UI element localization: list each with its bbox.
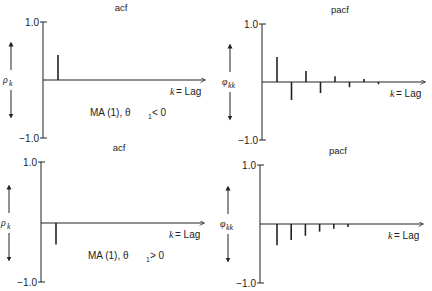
panel-title: pacf — [331, 4, 349, 15]
panel-title: acf — [113, 142, 126, 153]
y-bottom-tick-label: −1.0 — [236, 278, 256, 289]
y-label-subscript: k — [9, 79, 13, 88]
ma1-acf-pacf-diagram: acf 1.0 −1.0 ρ k k = Lag MA (1), θ 1 < 0… — [0, 0, 432, 291]
y-axis-label: ρ k — [2, 74, 13, 88]
x-axis-label: k = Lag — [169, 229, 200, 240]
y-label-subscript: kk — [228, 81, 236, 90]
y-top-tick-label: 1.0 — [25, 17, 39, 28]
x-axis-label: k = Lag — [170, 86, 201, 97]
y-top-tick-label: 1.0 — [242, 160, 256, 171]
y-bottom-tick-label: −1.0 — [19, 133, 39, 144]
x-axis-label: k = Lag — [390, 88, 421, 99]
y-top-tick-label: 1.0 — [244, 19, 258, 30]
panel-pacf-ma1-negative: pacf 1.0 −1.0 φ kk k = Lag — [222, 4, 425, 146]
x-label-text: = Lag — [176, 86, 201, 97]
y-top-tick-label: 1.0 — [23, 157, 37, 168]
annotation-relation: > 0 — [150, 250, 165, 261]
y-label-symbol: ρ — [0, 217, 6, 228]
y-label-symbol: ρ — [2, 74, 8, 85]
annotation-main: MA (1), θ — [88, 250, 129, 261]
x-axis-label: k = Lag — [388, 230, 419, 241]
annotation-relation: < 0 — [152, 107, 167, 118]
y-axis-label: φ kk — [222, 76, 236, 90]
panel-pacf-ma1-positive: pacf 1.0 −1.0 φ kk k = Lag — [220, 145, 423, 289]
x-label-var: k — [169, 229, 174, 240]
y-axis-label: ρ k — [0, 217, 11, 231]
x-label-text: = Lag — [396, 88, 421, 99]
annotation-main: MA (1), θ — [90, 107, 131, 118]
y-label-subscript: kk — [226, 223, 234, 232]
y-label-subscript: k — [7, 222, 11, 231]
y-bottom-tick-label: −1.0 — [17, 277, 37, 288]
model-annotation: MA (1), θ 1 > 0 — [88, 250, 165, 263]
x-label-var: k — [170, 86, 175, 97]
x-label-var: k — [388, 230, 393, 241]
panel-acf-ma1-positive: acf 1.0 −1.0 ρ k k = Lag MA (1), θ 1 > 0 — [0, 142, 204, 288]
model-annotation: MA (1), θ 1 < 0 — [90, 107, 167, 120]
x-label-var: k — [390, 88, 395, 99]
x-label-text: = Lag — [175, 229, 200, 240]
x-label-text: = Lag — [394, 230, 419, 241]
y-bottom-tick-label: −1.0 — [238, 135, 258, 146]
panel-title: acf — [115, 2, 128, 13]
panel-title: pacf — [329, 145, 347, 156]
y-axis-label: φ kk — [220, 218, 234, 232]
panel-acf-ma1-negative: acf 1.0 −1.0 ρ k k = Lag MA (1), θ 1 < 0 — [2, 2, 205, 144]
